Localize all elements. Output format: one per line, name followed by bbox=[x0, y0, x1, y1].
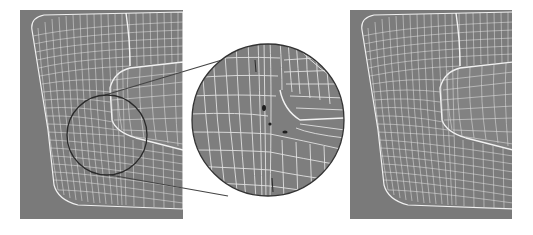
right-mesh-panel bbox=[350, 10, 513, 219]
mesh-comparison-figure bbox=[0, 0, 533, 235]
left-mesh-panel bbox=[20, 10, 183, 219]
magnified-detail-circle bbox=[190, 40, 345, 200]
